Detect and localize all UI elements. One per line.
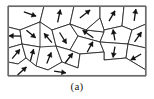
figure-caption: (a)	[0, 80, 154, 93]
figure-container: (a)	[0, 0, 154, 99]
grain-layer	[8, 6, 146, 76]
